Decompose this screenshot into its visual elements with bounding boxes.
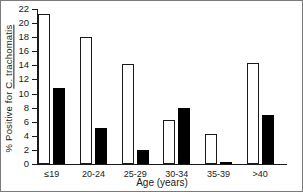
y-tick: 4 bbox=[32, 136, 37, 137]
y-tick-label: 12 bbox=[18, 73, 29, 84]
y-tick: 12 bbox=[32, 79, 37, 80]
bar-filled-4 bbox=[220, 162, 232, 164]
x-axis-label: Age (years) bbox=[37, 177, 287, 188]
bar-filled-1 bbox=[95, 128, 107, 164]
y-tick: 2 bbox=[32, 150, 37, 151]
y-axis-label: % Positive for C. trachomatis bbox=[1, 1, 17, 176]
y-tick: 14 bbox=[32, 65, 37, 66]
bar-open-5 bbox=[247, 63, 259, 164]
y-axis-label-species: C. trachomatis bbox=[4, 25, 15, 89]
bar-open-2 bbox=[122, 64, 134, 164]
y-tick-label: 0 bbox=[24, 158, 29, 169]
bar-filled-3 bbox=[178, 108, 190, 164]
y-tick-label: 10 bbox=[18, 88, 29, 99]
y-tick-label: 16 bbox=[18, 45, 29, 56]
y-tick: 16 bbox=[32, 51, 37, 52]
y-tick: 0 bbox=[32, 164, 37, 165]
y-tick-label: 14 bbox=[18, 59, 29, 70]
plot-area: 0246810121416182022 ≤1920-2425-2930-3435… bbox=[37, 9, 287, 164]
bar-open-0 bbox=[38, 14, 50, 164]
y-tick: 20 bbox=[32, 23, 37, 24]
bar-open-1 bbox=[80, 37, 92, 164]
y-tick-label: 20 bbox=[18, 17, 29, 28]
x-axis-line bbox=[37, 164, 287, 165]
bar-filled-2 bbox=[137, 150, 149, 164]
chart-figure: % Positive for C. trachomatis 0246810121… bbox=[0, 0, 303, 192]
y-tick-label: 4 bbox=[24, 130, 29, 141]
y-tick: 10 bbox=[32, 94, 37, 95]
y-tick-label: 6 bbox=[24, 116, 29, 127]
y-tick-label: 18 bbox=[18, 31, 29, 42]
y-tick-label: 2 bbox=[24, 144, 29, 155]
y-tick: 8 bbox=[32, 108, 37, 109]
y-tick-label: 22 bbox=[18, 3, 29, 14]
y-tick: 18 bbox=[32, 37, 37, 38]
bar-open-4 bbox=[205, 134, 217, 164]
bar-filled-0 bbox=[53, 88, 65, 164]
bar-open-3 bbox=[163, 120, 175, 164]
y-axis-label-prefix: % Positive for bbox=[4, 89, 15, 153]
y-tick: 22 bbox=[32, 9, 37, 10]
y-tick-label: 8 bbox=[24, 102, 29, 113]
bar-filled-5 bbox=[262, 115, 274, 164]
y-tick: 6 bbox=[32, 122, 37, 123]
